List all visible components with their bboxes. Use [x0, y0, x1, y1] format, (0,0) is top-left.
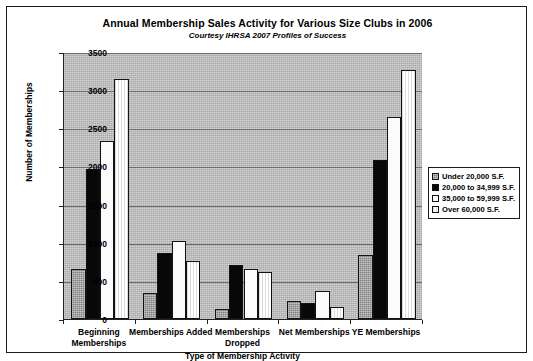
y-axis-tick-label: 3500 — [61, 48, 107, 58]
bar — [229, 265, 243, 319]
bar — [358, 255, 372, 319]
chart-subtitle: Courtesy IHRSA 2007 Profiles of Success — [7, 31, 528, 40]
legend-swatch-icon — [432, 206, 439, 213]
bar — [258, 272, 272, 319]
x-axis-title: Type of Membership Activity — [63, 351, 422, 361]
x-axis-category-label: YE Memberships — [344, 327, 428, 338]
legend-swatch-icon — [432, 184, 439, 191]
y-axis-tick-label: 0 — [61, 315, 107, 325]
y-axis-tick-label: 500 — [61, 277, 107, 287]
legend-label: Under 20,000 S.F. — [442, 172, 504, 181]
y-axis-tick-label: 1500 — [61, 201, 107, 211]
bar — [373, 160, 387, 319]
bar — [301, 303, 315, 319]
chart-frame: Annual Membership Sales Activity for Var… — [6, 6, 527, 353]
y-axis-tick-label: 1000 — [61, 239, 107, 249]
bar — [143, 293, 157, 319]
bar — [330, 307, 344, 319]
bar — [387, 117, 401, 319]
legend: Under 20,000 S.F.20,000 to 34,999 S.F.35… — [428, 167, 520, 219]
legend-item: Over 60,000 S.F. — [432, 204, 515, 215]
legend-label: 35,000 to 59,999 S.F. — [442, 194, 515, 203]
y-axis-tick — [59, 129, 63, 130]
gridline — [64, 53, 422, 54]
x-axis-tick — [422, 320, 423, 324]
bar — [215, 309, 229, 319]
bar — [157, 253, 171, 319]
y-axis-tick — [59, 282, 63, 283]
y-axis-tick — [59, 244, 63, 245]
y-axis-tick — [59, 91, 63, 92]
bar — [114, 79, 128, 319]
legend-label: Over 60,000 S.F. — [442, 205, 500, 214]
legend-label: 20,000 to 34,999 S.F. — [442, 183, 515, 192]
legend-item: Under 20,000 S.F. — [432, 171, 515, 182]
legend-swatch-icon — [432, 173, 439, 180]
legend-item: 20,000 to 34,999 S.F. — [432, 182, 515, 193]
y-axis-tick — [59, 167, 63, 168]
legend-item: 35,000 to 59,999 S.F. — [432, 193, 515, 204]
y-axis-title: Number of Memberships — [24, 47, 34, 217]
bar — [244, 269, 258, 319]
bar — [315, 291, 329, 319]
bar — [287, 301, 301, 319]
x-axis-tick — [63, 320, 64, 324]
y-axis-tick-label: 2000 — [61, 162, 107, 172]
chart-title: Annual Membership Sales Activity for Var… — [7, 17, 528, 29]
bar — [186, 261, 200, 319]
bar — [172, 241, 186, 319]
plot-area — [63, 53, 422, 320]
x-axis-tick — [135, 320, 136, 324]
y-axis-tick-label: 3000 — [61, 86, 107, 96]
y-axis-tick — [59, 206, 63, 207]
y-axis-tick — [59, 53, 63, 54]
x-axis-tick — [350, 320, 351, 324]
y-axis-tick-label: 2500 — [61, 124, 107, 134]
x-axis-tick — [278, 320, 279, 324]
x-axis-tick — [207, 320, 208, 324]
legend-swatch-icon — [432, 195, 439, 202]
bar — [401, 70, 415, 319]
